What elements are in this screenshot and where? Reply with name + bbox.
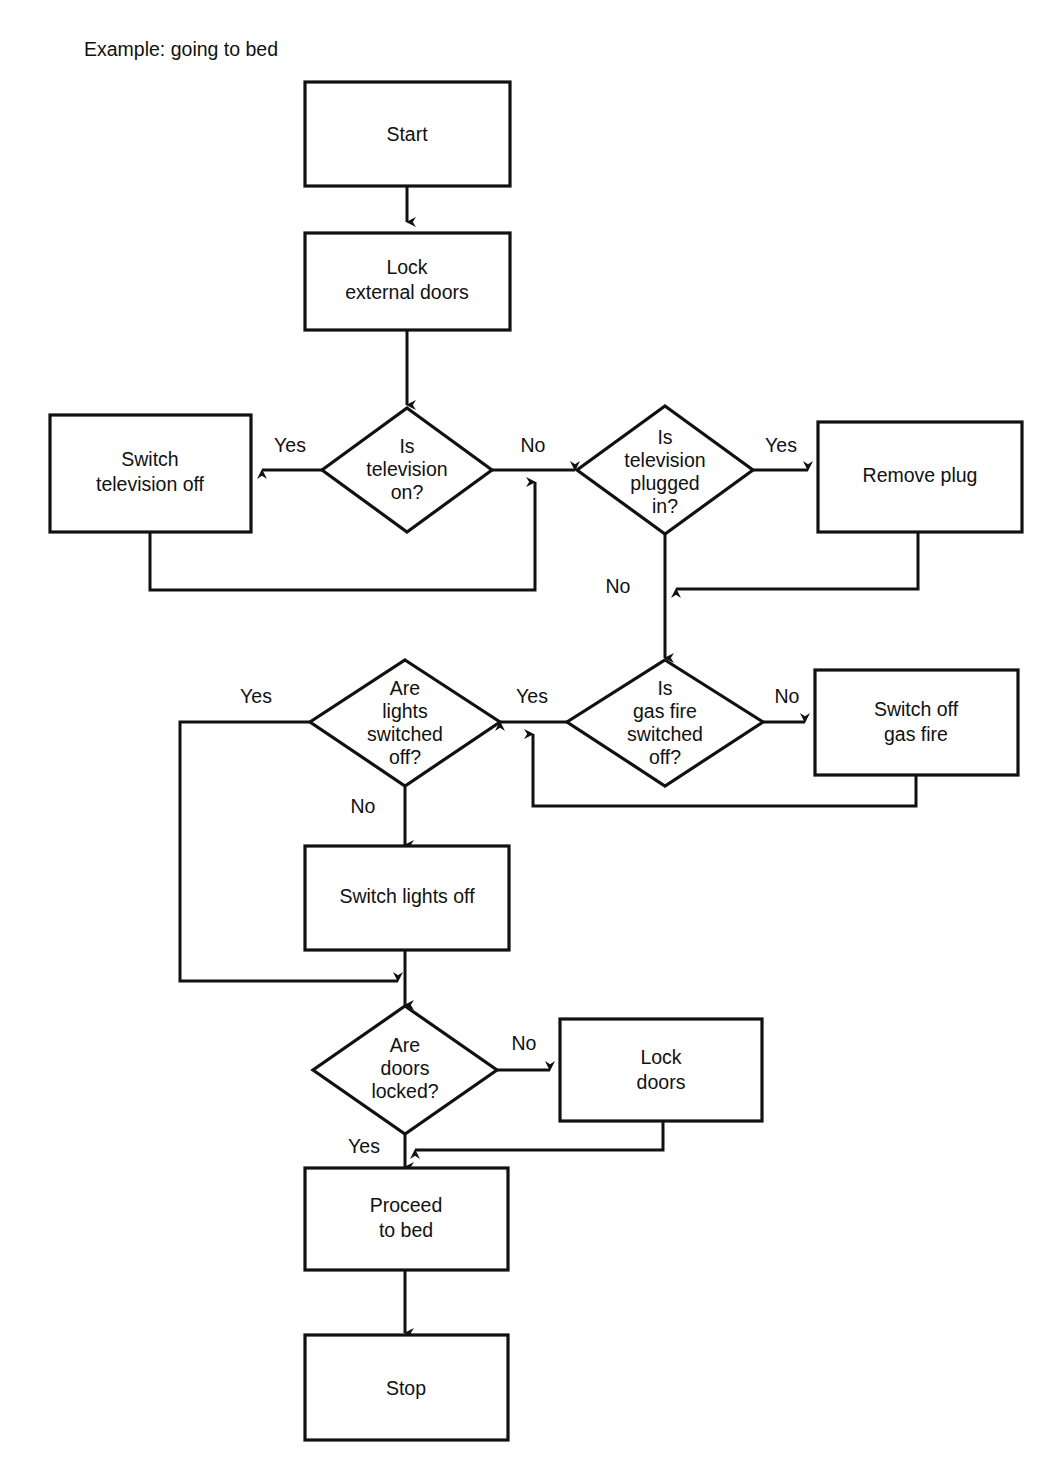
are-doors-locked-label-line3: locked? xyxy=(371,1080,438,1102)
is-television-on-label-line2: television xyxy=(366,458,447,480)
switch-television-off-label-line2: television off xyxy=(96,473,205,495)
node-switch-off-gas-fire[interactable]: Switch off gas fire xyxy=(815,670,1018,775)
node-lock-external-doors[interactable]: Lock external doors xyxy=(305,233,510,330)
remove-plug-label: Remove plug xyxy=(863,464,978,486)
edge-label-tv-plugged-yes: Yes xyxy=(765,434,797,456)
edge-label-tv-on-no: No xyxy=(521,434,546,456)
node-is-gas-fire-switched-off[interactable]: Is gas fire switched off? xyxy=(567,660,763,786)
is-gas-fire-switched-off-label-line2: gas fire xyxy=(633,700,697,722)
is-television-plugged-in-label-line2: television xyxy=(624,449,705,471)
page-caption: Example: going to bed xyxy=(84,38,278,60)
is-gas-fire-switched-off-label-line4: off? xyxy=(649,746,681,768)
is-television-plugged-in-label-line3: plugged xyxy=(630,472,699,494)
lock-doors-label-line2: doors xyxy=(637,1071,686,1093)
stop-label: Stop xyxy=(386,1377,426,1399)
flowchart-canvas: Example: going to bed Switch television … xyxy=(0,0,1064,1475)
are-lights-switched-off-label-line4: off? xyxy=(389,746,421,768)
is-gas-fire-switched-off-label-line1: Is xyxy=(657,677,672,699)
node-is-television-on[interactable]: Is television on? xyxy=(322,408,492,532)
are-doors-locked-label-line2: doors xyxy=(381,1057,430,1079)
node-start[interactable]: Start xyxy=(305,82,510,186)
edge-label-tv-on-yes: Yes xyxy=(274,434,306,456)
lock-doors-label-line1: Lock xyxy=(640,1046,681,1068)
is-gas-fire-switched-off-label-line3: switched xyxy=(627,723,703,745)
lock-external-doors-label-line2: external doors xyxy=(345,281,469,303)
node-is-television-plugged-in[interactable]: Is television plugged in? xyxy=(577,406,753,534)
node-proceed-to-bed[interactable]: Proceed to bed xyxy=(305,1168,508,1270)
edge-label-lights-no: No xyxy=(351,795,376,817)
flowchart-container: Example: going to bed Switch television … xyxy=(0,0,1064,1475)
node-remove-plug[interactable]: Remove plug xyxy=(818,422,1022,532)
node-switch-television-off[interactable]: Switch television off xyxy=(50,415,251,532)
edge-label-doors-no: No xyxy=(512,1032,537,1054)
switch-off-gas-fire-label-line1: Switch off xyxy=(874,698,959,720)
edge-label-gas-fire-no: No xyxy=(775,685,800,707)
proceed-to-bed-label-line1: Proceed xyxy=(370,1194,443,1216)
node-switch-lights-off[interactable]: Switch lights off xyxy=(305,846,509,950)
are-lights-switched-off-label-line3: switched xyxy=(367,723,443,745)
switch-lights-off-label: Switch lights off xyxy=(339,885,475,907)
edge-label-tv-plugged-no: No xyxy=(606,575,631,597)
lock-doors-box[interactable] xyxy=(560,1019,762,1121)
edge-label-gas-fire-yes: Yes xyxy=(516,685,548,707)
node-stop[interactable]: Stop xyxy=(305,1335,508,1440)
lock-external-doors-label-line1: Lock xyxy=(386,256,427,278)
is-television-plugged-in-label-line4: in? xyxy=(652,495,678,517)
is-television-on-label-line3: on? xyxy=(391,481,424,503)
switch-television-off-label-line1: Switch xyxy=(121,448,178,470)
switch-off-gas-fire-label-line2: gas fire xyxy=(884,723,948,745)
are-doors-locked-label-line1: Are xyxy=(390,1034,420,1056)
are-lights-switched-off-label-line2: lights xyxy=(382,700,428,722)
edge-label-lights-yes: Yes xyxy=(240,685,272,707)
node-lock-doors[interactable]: Lock doors xyxy=(560,1019,762,1121)
proceed-to-bed-label-line2: to bed xyxy=(379,1219,433,1241)
are-lights-switched-off-label-line1: Are xyxy=(390,677,420,699)
node-are-lights-switched-off[interactable]: Are lights switched off? xyxy=(310,660,500,786)
start-label: Start xyxy=(386,123,428,145)
connector-remove-plug-return xyxy=(676,532,918,589)
is-television-plugged-in-label-line1: Is xyxy=(657,426,672,448)
connector-lock-doors-return xyxy=(415,1121,663,1150)
is-television-on-label-line1: Is xyxy=(399,435,414,457)
node-are-doors-locked[interactable]: Are doors locked? xyxy=(313,1006,497,1134)
edge-label-doors-yes: Yes xyxy=(348,1135,380,1157)
